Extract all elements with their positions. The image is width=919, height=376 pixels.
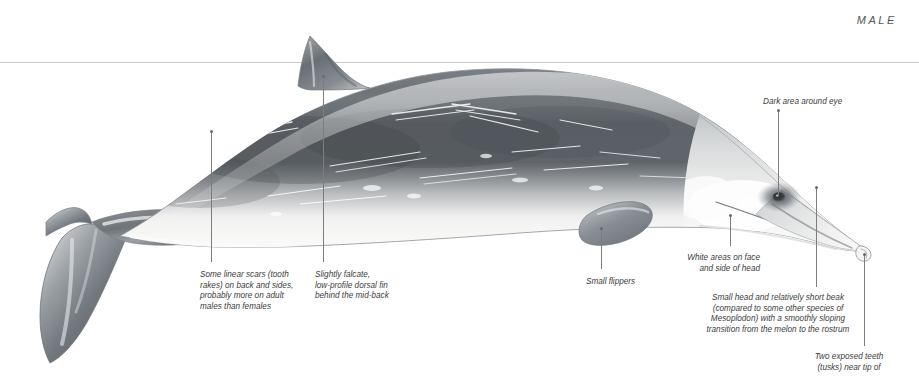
callout-dorsal-fin: Slightly falcate, low-profile dorsal fin…	[315, 270, 425, 302]
callout-white-areas-face: White areas on face and side of head	[668, 253, 760, 274]
callout-small-head-short-beak: Small head and relatively short beak (co…	[696, 293, 860, 335]
callout-linear-scars: Some linear scars (tooth rakes) on back …	[200, 270, 320, 312]
leader-line-linear-scars	[211, 131, 212, 262]
leader-dot-small-flippers	[600, 227, 603, 230]
dorsal-fin	[298, 36, 370, 90]
leader-line-dorsal-fin	[323, 76, 324, 262]
leader-line-small-flippers	[601, 228, 602, 269]
leader-line-white-areas-face	[730, 215, 731, 246]
leader-dot-linear-scars	[210, 130, 213, 133]
leader-dot-exposed-teeth	[863, 253, 866, 256]
dorsal-fin-group	[298, 36, 370, 90]
head-group	[672, 100, 886, 261]
eye	[773, 192, 785, 202]
leader-line-dark-area-eye	[778, 110, 779, 196]
leader-line-exposed-teeth	[864, 254, 865, 346]
leader-dot-dorsal-fin	[322, 75, 325, 78]
leader-dot-white-areas-face	[729, 214, 732, 217]
leader-dot-small-head-short-beak	[815, 186, 818, 189]
leader-line-small-head-short-beak	[816, 187, 817, 287]
callout-small-flippers: Small flippers	[586, 277, 676, 288]
leader-dot-dark-area-eye	[777, 109, 780, 112]
callout-exposed-teeth: Two exposed teeth (tusks) near tip of	[788, 352, 910, 373]
illustration-page: MALE	[0, 0, 919, 376]
callout-dark-area-eye: Dark area around eye	[763, 97, 863, 108]
